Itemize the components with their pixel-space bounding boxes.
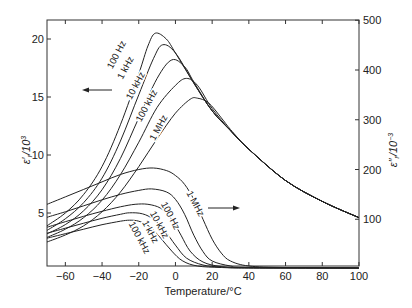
- x-tick-label: −20: [129, 270, 148, 282]
- right-tick-label: 400: [363, 64, 381, 76]
- right-arrow-icon: [208, 206, 240, 211]
- x-tick-label: 60: [279, 270, 291, 282]
- loss-curve: [47, 213, 359, 268]
- curves: [47, 33, 359, 268]
- left-tick-label: 20: [32, 33, 44, 45]
- dielectric-chart: −60−40−20020406080100 5101520 1002003004…: [0, 0, 412, 308]
- x-axis-label: Temperature/°C: [164, 285, 241, 297]
- left-tick-label: 10: [32, 149, 44, 161]
- x-axis-ticks: −60−40−20020406080100: [56, 20, 368, 282]
- left-tick-label: 5: [38, 207, 44, 219]
- curve-label: 1 MHz: [147, 113, 170, 143]
- loss-curve: [47, 220, 359, 268]
- left-arrow-icon: [82, 88, 112, 93]
- left-tick-label: 15: [32, 91, 44, 103]
- x-tick-label: 100: [350, 270, 368, 282]
- curve-labels: 100 Hz1 kHz10 kHz100 kHz1 MHz1 MHz100 Hz…: [104, 38, 207, 255]
- x-tick-label: 80: [316, 270, 328, 282]
- curve-label: 1 MHz: [185, 189, 208, 219]
- permittivity-curve: [47, 33, 359, 226]
- x-tick-label: 0: [172, 270, 178, 282]
- x-tick-label: −60: [56, 270, 75, 282]
- x-tick-label: −40: [93, 270, 112, 282]
- right-axis-label: ε″r/10−3: [387, 133, 400, 167]
- left-axis-ticks: 5101520: [32, 33, 51, 219]
- chart-canvas: −60−40−20020406080100 5101520 1002003004…: [0, 0, 412, 308]
- x-tick-label: 20: [206, 270, 218, 282]
- right-tick-label: 100: [363, 213, 381, 225]
- x-tick-label: 40: [243, 270, 255, 282]
- right-tick-label: 200: [363, 164, 381, 176]
- right-tick-label: 500: [363, 14, 381, 26]
- loss-curve: [47, 168, 359, 268]
- left-axis-label: ε′r/103: [20, 136, 33, 165]
- right-tick-label: 300: [363, 114, 381, 126]
- plot-frame: [47, 20, 359, 266]
